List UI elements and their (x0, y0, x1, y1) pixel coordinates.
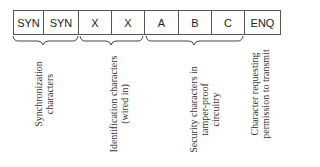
label-sec-line3: circuitry (210, 55, 221, 165)
label-id-line1: Identification characters (108, 39, 119, 167)
brace-security (146, 36, 243, 45)
label-sec-line1: Security characters in (188, 55, 199, 165)
label-security: Security characters in tamper-proof circ… (188, 55, 223, 165)
label-sync-line1: Synchronization (33, 44, 44, 144)
label-enq-line2: permission to transmit (260, 34, 271, 154)
label-sec-line2: tamper-proof (199, 55, 210, 165)
label-id-line2: (wired in) (119, 39, 130, 167)
label-sync-line2: characters (44, 44, 55, 144)
label-identification: Identification characters (wired in) (108, 39, 132, 167)
label-enq-line1: Character requesting (249, 34, 260, 154)
label-sync: Synchronization characters (33, 44, 57, 144)
label-enq: Character requesting permission to trans… (249, 34, 273, 154)
